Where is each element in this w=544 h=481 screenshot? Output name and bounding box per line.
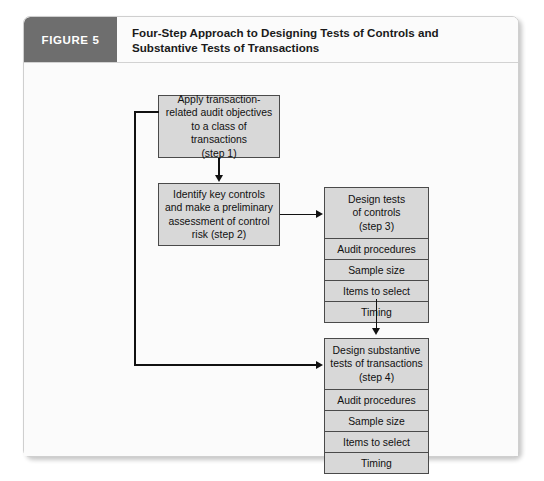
step-4-row-timing: Timing (324, 453, 429, 474)
step-2-line-2: and make a preliminary (165, 201, 273, 214)
connector-step1-left-stub (134, 111, 159, 113)
step-3-row-sample-size: Sample size (324, 260, 429, 281)
step-4-row-audit-procedures: Audit procedures (324, 390, 429, 411)
flowchart-diagram: Apply transaction- related audit objecti… (24, 63, 518, 456)
step-2-line-3: assessment of control (165, 215, 273, 228)
figure-title: Four-Step Approach to Designing Tests of… (117, 17, 518, 62)
step-2-line-4: risk (step 2) (165, 228, 273, 241)
step-3-line-3: (step 3) (348, 220, 405, 233)
arrowhead-bracket-to-step4 (316, 361, 323, 369)
step-3-row-audit-procedures: Audit procedures (324, 239, 429, 260)
step-4-header: Design substantive tests of transactions… (324, 338, 429, 390)
connector-left-bracket-vertical (134, 111, 136, 366)
arrowhead-step3-to-step4 (372, 328, 380, 335)
step-4-row-items-to-select: Items to select (324, 432, 429, 453)
figure-title-line-2: Substantive Tests of Transactions (132, 40, 439, 55)
connector-step3-to-step4 (376, 299, 378, 329)
arrowhead-step1-to-step2 (215, 175, 223, 182)
figure-title-line-1: Four-Step Approach to Designing Tests of… (132, 25, 439, 40)
figure-number-tag: FIGURE 5 (24, 17, 117, 62)
step-4-line-2: tests of transactions (330, 357, 422, 370)
connector-step2-to-step3 (280, 214, 317, 216)
connector-step1-to-step2 (218, 158, 220, 176)
flow-node-step-2: Identify key controls and make a prelimi… (158, 183, 280, 246)
step-4-row-sample-size: Sample size (324, 411, 429, 432)
step-3-line-1: Design tests (348, 193, 405, 206)
arrowhead-step2-to-step3 (316, 210, 323, 218)
step-1-line-2: related audit objectives (163, 106, 275, 119)
connector-bracket-to-step4 (134, 364, 317, 366)
step-4-line-1: Design substantive (330, 344, 422, 357)
figure-frame: FIGURE 5 Four-Step Approach to Designing… (23, 16, 519, 457)
step-3-line-2: of controls (348, 206, 405, 219)
step-1-line-1: Apply transaction- (163, 93, 275, 106)
step-2-line-1: Identify key controls (165, 188, 273, 201)
step-1-line-3: to a class of transactions (163, 120, 275, 147)
figure-header: FIGURE 5 Four-Step Approach to Designing… (24, 17, 518, 62)
step-3-header: Design tests of controls (step 3) (324, 187, 429, 239)
step-4-line-3: (step 4) (330, 371, 422, 384)
flow-node-step-1: Apply transaction- related audit objecti… (158, 95, 280, 158)
flow-stack-step-4: Design substantive tests of transactions… (324, 338, 429, 474)
